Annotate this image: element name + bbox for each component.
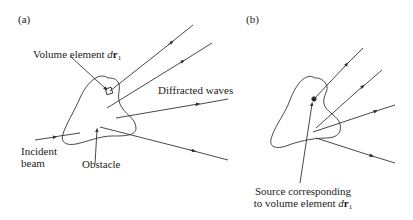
incident-line2: beam <box>21 157 57 169</box>
incident-line1: Incident <box>21 145 57 157</box>
diffracted-waves-label: Diffracted waves <box>158 84 233 96</box>
obstacle-label: Obstacle <box>82 158 120 170</box>
incident-beam-label: Incident beam <box>21 145 57 169</box>
panel-b-label: (b) <box>246 13 259 25</box>
source-label: Source corresponding to volume element d… <box>243 185 363 213</box>
source-line2-text: to volume element <box>254 197 339 209</box>
volume-element-text: Volume element <box>33 48 107 60</box>
subscript: 1 <box>349 203 353 211</box>
volume-element-a <box>105 87 112 94</box>
volume-element-label: Volume element dr1 <box>33 48 121 64</box>
subscript: 1 <box>118 54 122 62</box>
panel-b <box>271 48 395 183</box>
source-line1: Source corresponding <box>243 185 363 197</box>
obstacle-shape-b <box>271 76 341 147</box>
source-line2: to volume element dr1 <box>243 197 363 213</box>
panel-a-label: (a) <box>18 13 30 25</box>
